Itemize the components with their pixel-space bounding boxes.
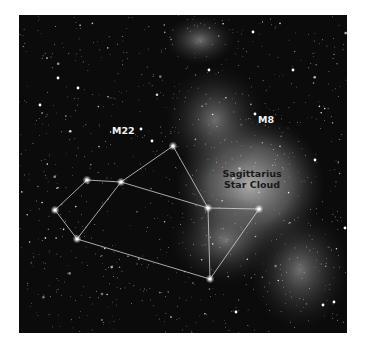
star-cloud-label: Sagittarius Star Cloud — [221, 168, 283, 190]
star-icon — [75, 237, 78, 240]
asterism-line — [55, 180, 87, 210]
star-cloud-label-line2: Star Cloud — [221, 179, 283, 190]
star-field-photo: M22 M8 Sagittarius Star Cloud — [19, 15, 347, 333]
star-icon — [206, 206, 209, 209]
star-icon — [85, 178, 88, 181]
m8-label: M8 — [258, 114, 274, 125]
m22-label: M22 — [112, 125, 135, 136]
asterism-line — [55, 210, 77, 239]
sky-chart — [19, 15, 347, 333]
asterism-line — [77, 182, 121, 239]
star-cloud-label-line1: Sagittarius — [221, 168, 283, 179]
star-icon — [257, 207, 260, 210]
star-icon — [171, 144, 174, 147]
star-icon — [119, 180, 122, 183]
asterism-line — [121, 146, 173, 182]
star-icon — [208, 277, 211, 280]
asterism-line — [87, 180, 121, 182]
star-icon — [53, 208, 56, 211]
